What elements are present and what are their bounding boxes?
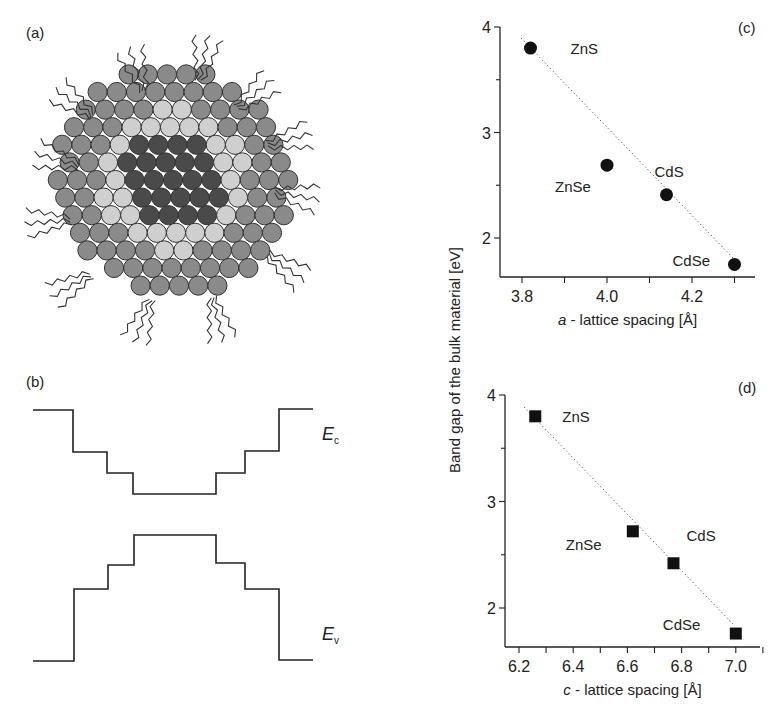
atom <box>169 276 188 295</box>
atom <box>236 206 255 225</box>
atom <box>106 170 125 189</box>
atom <box>104 258 123 277</box>
atom <box>200 258 219 277</box>
atom <box>239 258 258 277</box>
atom <box>150 276 169 295</box>
y-tick-label: 4 <box>482 19 491 36</box>
atom <box>255 206 274 225</box>
atom <box>233 153 252 172</box>
point-label-cds: CdS <box>686 527 715 544</box>
x-tick-label: 4.2 <box>681 288 703 305</box>
atom <box>186 223 205 242</box>
atom <box>156 153 175 172</box>
atom <box>237 118 256 137</box>
trend-line <box>524 407 733 624</box>
atom <box>245 135 264 154</box>
atom <box>224 223 243 242</box>
ligand-chain <box>120 300 149 335</box>
atom <box>90 223 109 242</box>
y-tick-label: 2 <box>487 600 496 617</box>
atom <box>165 82 184 101</box>
atom <box>191 100 210 119</box>
ligand-chain <box>45 272 90 285</box>
data-point-cdse <box>730 628 742 640</box>
data-point-cdse <box>728 258 741 271</box>
atom <box>160 118 179 137</box>
atom <box>118 153 137 172</box>
atom <box>153 100 172 119</box>
point-label-znse: ZnSe <box>566 536 602 553</box>
y-tick-label: 4 <box>487 387 496 404</box>
data-point-cds <box>660 188 673 201</box>
atom <box>174 241 193 260</box>
ec-label: Ec <box>322 424 339 446</box>
atom <box>202 170 221 189</box>
atom <box>135 241 154 260</box>
x-tick-label: 7.0 <box>725 658 747 675</box>
atom <box>144 170 163 189</box>
atom <box>187 135 206 154</box>
atom <box>218 118 237 137</box>
atom <box>181 258 200 277</box>
atom <box>252 153 271 172</box>
atom <box>221 170 240 189</box>
atom <box>206 135 225 154</box>
atom <box>122 118 141 137</box>
atom <box>171 188 190 207</box>
atom <box>128 223 147 242</box>
panel-d-label: (d) <box>738 379 756 396</box>
point-label-zns: ZnS <box>562 408 590 425</box>
atom <box>194 153 213 172</box>
ligand-chain <box>269 253 304 283</box>
x-tick-label: 6.8 <box>670 658 692 675</box>
atom <box>183 170 202 189</box>
atom <box>212 241 231 260</box>
atom <box>166 223 185 242</box>
atom <box>137 153 156 172</box>
data-point-cds <box>667 557 679 569</box>
atom <box>149 135 168 154</box>
chart-d-lattice-c: 2346.26.46.66.87.0c - lattice spacing [Å… <box>487 387 763 698</box>
atom <box>203 82 222 101</box>
atom <box>107 82 126 101</box>
atom <box>205 223 224 242</box>
atom <box>140 206 159 225</box>
panel-a-label: (a) <box>26 24 44 41</box>
atom <box>209 188 228 207</box>
atom <box>197 206 216 225</box>
atom <box>87 170 106 189</box>
trend-line <box>521 38 733 258</box>
atom <box>217 206 236 225</box>
x-axis-label: c - lattice spacing [Å] <box>563 681 701 698</box>
valence-band-edge <box>33 535 313 661</box>
atom <box>103 118 122 137</box>
atom <box>94 188 113 207</box>
atom <box>113 188 132 207</box>
atom <box>240 170 259 189</box>
atom <box>180 118 199 137</box>
y-tick-label: 3 <box>482 125 491 142</box>
atom <box>157 65 176 84</box>
ev-label: Ev <box>322 624 339 646</box>
x-axis-label: a - lattice spacing [Å] <box>558 311 697 328</box>
x-tick-label: 3.8 <box>511 288 533 305</box>
atom <box>56 188 75 207</box>
atom <box>84 118 103 137</box>
atom <box>75 188 94 207</box>
atom <box>95 100 114 119</box>
atom <box>228 188 247 207</box>
atom <box>259 170 278 189</box>
atom <box>72 135 91 154</box>
atom <box>178 206 197 225</box>
data-point-znse <box>627 525 639 537</box>
atom <box>88 82 107 101</box>
data-point-zns <box>529 410 541 422</box>
atom <box>121 206 140 225</box>
atom <box>208 276 227 295</box>
atom <box>172 100 191 119</box>
x-tick-label: 6.6 <box>616 658 638 675</box>
atom <box>162 258 181 277</box>
point-label-zns: ZnS <box>571 40 599 57</box>
atom <box>110 135 129 154</box>
atom <box>189 276 208 295</box>
